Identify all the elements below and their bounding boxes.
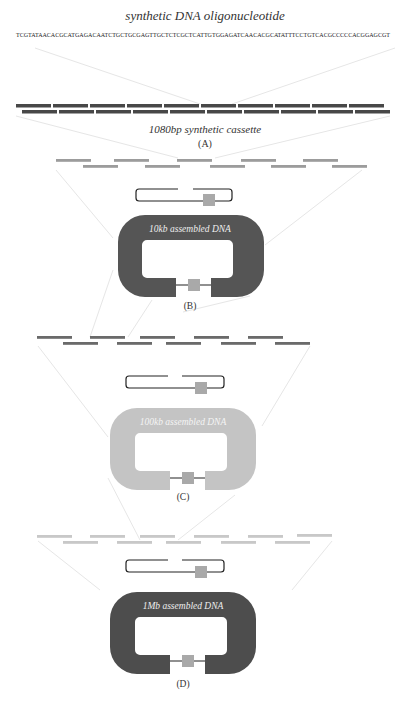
panel-b-vector-linker: [136, 189, 232, 206]
panel-label-a: (A): [198, 138, 212, 150]
panel-d-vector-linker: [126, 560, 224, 578]
panel-b-cassette-bars: [56, 159, 367, 168]
panel-c-ring-bars: [37, 336, 310, 345]
ring-caption-d: 1Mb assembled DNA: [143, 601, 224, 611]
cassette-caption: 1080bp synthetic cassette: [149, 123, 262, 135]
insert-box: [195, 382, 207, 394]
ring-caption-c: 100kb assembled DNA: [140, 417, 227, 427]
panel-c-vector-linker: [126, 376, 224, 394]
panel-b-assembled-ring: 10kb assembled DNA: [118, 215, 264, 297]
panel-label-b: (B): [184, 301, 197, 312]
dna-assembly-diagram: synthetic DNA oligonucleotide TCGTATAACA…: [0, 0, 405, 702]
insert-box: [182, 655, 194, 667]
insert-box: [182, 472, 194, 484]
cassette-oligo-bars: [16, 104, 390, 114]
insert-box: [195, 566, 207, 578]
insert-box: [203, 194, 215, 206]
oligo-sequence: TCGTATAACACGCATGAGACAATCTGCTGCGAGTTGCTCT…: [16, 32, 391, 38]
ring-caption-b: 10kb assembled DNA: [149, 224, 231, 234]
panel-c-assembled-ring: 100kb assembled DNA: [110, 408, 256, 490]
insert-box: [188, 279, 200, 291]
figure-title: synthetic DNA oligonucleotide: [125, 8, 285, 23]
panel-label-c: (C): [177, 492, 190, 503]
panel-d-assembled-ring: 1Mb assembled DNA: [110, 592, 256, 674]
panel-label-d: (D): [176, 679, 189, 690]
